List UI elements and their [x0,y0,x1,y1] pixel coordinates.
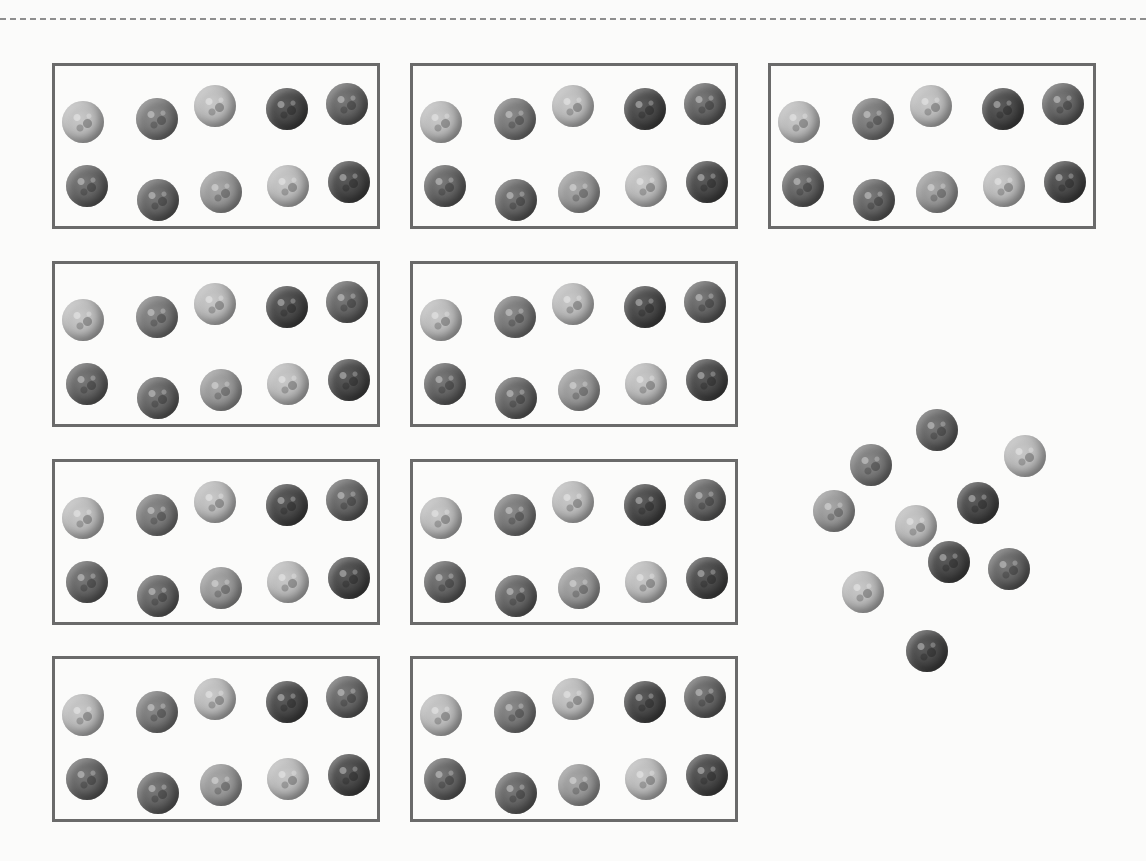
marble-icon [66,165,108,207]
marble-icon [778,101,820,143]
group-of-ten-box [52,261,380,427]
dashed-cut-line [0,18,1146,20]
marble-icon [328,754,370,796]
marble-icon [495,772,537,814]
marble-icon [625,758,667,800]
marble-icon [852,98,894,140]
marble-icon [684,83,726,125]
marble-icon [558,567,600,609]
marble-icon [136,296,178,338]
marble-icon [266,681,308,723]
marble-icon [66,363,108,405]
marble-icon [326,83,368,125]
marble-icon [136,98,178,140]
marble-icon [326,281,368,323]
marble-icon [62,497,104,539]
group-of-ten-box [52,459,380,625]
marble-icon [624,484,666,526]
marble-icon [137,575,179,617]
loose-marble-icon [813,490,855,532]
marble-icon [424,758,466,800]
marble-icon [328,557,370,599]
marble-icon [558,764,600,806]
marble-icon [200,369,242,411]
marble-icon [495,179,537,221]
marble-icon [267,363,309,405]
loose-marble-icon [957,482,999,524]
loose-marble-icon [988,548,1030,590]
marble-icon [686,161,728,203]
marble-icon [424,165,466,207]
group-of-ten-box [768,63,1096,229]
marble-icon [625,363,667,405]
marble-icon [328,161,370,203]
marble-icon [495,377,537,419]
marble-icon [420,101,462,143]
marble-icon [495,575,537,617]
marble-icon [266,88,308,130]
marble-icon [686,359,728,401]
marble-icon [328,359,370,401]
marble-icon [1044,161,1086,203]
marble-icon [494,691,536,733]
marble-icon [194,678,236,720]
group-of-ten-box [52,656,380,822]
marble-icon [136,691,178,733]
marble-icon [137,179,179,221]
marble-icon [684,479,726,521]
marble-icon [200,764,242,806]
marble-icon [624,286,666,328]
marble-icon [62,101,104,143]
marble-icon [494,98,536,140]
loose-marble-icon [928,541,970,583]
marble-icon [266,484,308,526]
marble-icon [424,561,466,603]
marble-icon [624,681,666,723]
loose-marble-icon [850,444,892,486]
marble-icon [552,481,594,523]
marble-icon [686,557,728,599]
marble-icon [266,286,308,328]
marble-icon [62,299,104,341]
marble-icon [420,299,462,341]
marble-icon [194,283,236,325]
marble-icon [66,758,108,800]
marble-icon [267,561,309,603]
marble-icon [420,694,462,736]
loose-marble-icon [916,409,958,451]
group-of-ten-box [410,63,738,229]
marble-icon [194,85,236,127]
marble-icon [983,165,1025,207]
marble-icon [267,758,309,800]
group-of-ten-box [410,656,738,822]
marble-icon [782,165,824,207]
marble-icon [62,694,104,736]
marble-icon [916,171,958,213]
marble-icon [558,369,600,411]
marble-icon [625,561,667,603]
marble-icon [552,85,594,127]
marble-icon [625,165,667,207]
marble-icon [137,772,179,814]
marble-icon [494,494,536,536]
marble-icon [686,754,728,796]
marble-icon [624,88,666,130]
marble-icon [200,567,242,609]
marble-icon [552,283,594,325]
marble-icon [326,676,368,718]
marble-icon [194,481,236,523]
marble-icon [853,179,895,221]
marble-icon [136,494,178,536]
marble-icon [137,377,179,419]
marble-icon [1042,83,1084,125]
loose-marble-icon [895,505,937,547]
group-of-ten-box [410,459,738,625]
marble-icon [558,171,600,213]
marble-icon [424,363,466,405]
marble-icon [420,497,462,539]
marble-icon [910,85,952,127]
marble-icon [494,296,536,338]
group-of-ten-box [52,63,380,229]
marble-icon [267,165,309,207]
marble-icon [552,678,594,720]
